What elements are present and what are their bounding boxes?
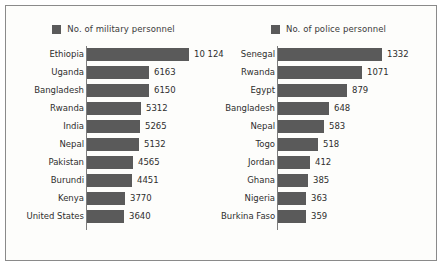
bar-value-label: 6150 bbox=[154, 84, 176, 97]
category-label: Nepal bbox=[221, 120, 275, 133]
bar bbox=[278, 66, 362, 79]
legend-swatch-icon bbox=[52, 25, 61, 34]
bar-value-label: 5312 bbox=[146, 102, 168, 115]
police-personnel-chart: No. of police personnel Senegal1332Rwand… bbox=[221, 6, 436, 260]
bar-row: Pakistan4565 bbox=[6, 154, 221, 172]
category-label: India bbox=[6, 120, 84, 133]
bar-value-label: 4565 bbox=[138, 156, 160, 169]
bar-value-label: 5132 bbox=[144, 138, 166, 151]
category-label: Rwanda bbox=[6, 102, 84, 115]
chart-frame: No. of military personnel Ethiopia10 124… bbox=[5, 5, 437, 261]
bar-rows-police: Senegal1332Rwanda1071Egypt879Bangladesh6… bbox=[221, 46, 436, 226]
bar bbox=[278, 156, 310, 169]
legend-police: No. of police personnel bbox=[221, 24, 436, 34]
bar-rows-military: Ethiopia10 124Uganda6163Bangladesh6150Rw… bbox=[6, 46, 221, 226]
bar bbox=[87, 192, 125, 205]
bar-value-label: 1332 bbox=[387, 48, 409, 61]
bar-value-label: 3770 bbox=[130, 192, 152, 205]
bar-row: Bangladesh6150 bbox=[6, 82, 221, 100]
bar-row: Rwanda5312 bbox=[6, 100, 221, 118]
bar bbox=[278, 102, 329, 115]
bar-row: Togo518 bbox=[221, 136, 436, 154]
bar-row: Uganda6163 bbox=[6, 64, 221, 82]
bar-value-label: 5265 bbox=[145, 120, 167, 133]
bar-row: Burkina Faso359 bbox=[221, 208, 436, 226]
bar-row: Burundi4451 bbox=[6, 172, 221, 190]
bar-row: Rwanda1071 bbox=[221, 64, 436, 82]
bar bbox=[278, 174, 308, 187]
bar-row: India5265 bbox=[6, 118, 221, 136]
bar-row: Nepal583 bbox=[221, 118, 436, 136]
category-label: Pakistan bbox=[6, 156, 84, 169]
bar bbox=[87, 66, 149, 79]
category-label: Kenya bbox=[6, 192, 84, 205]
bar-value-label: 518 bbox=[323, 138, 339, 151]
bar bbox=[87, 156, 133, 169]
plot-area-police: Senegal1332Rwanda1071Egypt879Bangladesh6… bbox=[221, 46, 436, 236]
bar-value-label: 3640 bbox=[129, 210, 151, 223]
bar-value-label: 879 bbox=[352, 84, 368, 97]
bar-row: Ethiopia10 124 bbox=[6, 46, 221, 64]
bar bbox=[278, 120, 324, 133]
bar bbox=[87, 174, 132, 187]
category-label: Bangladesh bbox=[6, 84, 84, 97]
category-label: Senegal bbox=[221, 48, 275, 61]
legend-label-police: No. of police personnel bbox=[286, 24, 386, 34]
category-label: Nigeria bbox=[221, 192, 275, 205]
bar bbox=[87, 210, 124, 223]
legend-label-military: No. of military personnel bbox=[67, 24, 174, 34]
bar-value-label: 6163 bbox=[154, 66, 176, 79]
category-label: Ethiopia bbox=[6, 48, 84, 61]
bar bbox=[278, 84, 347, 97]
category-label: Ghana bbox=[221, 174, 275, 187]
category-label: Bangladesh bbox=[221, 102, 275, 115]
category-label: Jordan bbox=[221, 156, 275, 169]
bar-row: Kenya3770 bbox=[6, 190, 221, 208]
bar bbox=[278, 48, 382, 61]
legend-swatch-icon bbox=[271, 25, 280, 34]
legend-military: No. of military personnel bbox=[6, 24, 221, 34]
bar-row: Jordan412 bbox=[221, 154, 436, 172]
bar-value-label: 10 124 bbox=[194, 48, 224, 61]
category-label: Egypt bbox=[221, 84, 275, 97]
charts-container: No. of military personnel Ethiopia10 124… bbox=[6, 6, 436, 260]
bar-row: Egypt879 bbox=[221, 82, 436, 100]
bar-value-label: 1071 bbox=[367, 66, 389, 79]
bar-value-label: 412 bbox=[315, 156, 331, 169]
bar-value-label: 359 bbox=[311, 210, 327, 223]
category-label: Uganda bbox=[6, 66, 84, 79]
bar bbox=[87, 48, 189, 61]
plot-area-military: Ethiopia10 124Uganda6163Bangladesh6150Rw… bbox=[6, 46, 221, 236]
bar bbox=[87, 138, 139, 151]
bar bbox=[278, 138, 318, 151]
bar-row: Ghana385 bbox=[221, 172, 436, 190]
bar bbox=[87, 120, 140, 133]
category-label: Nepal bbox=[6, 138, 84, 151]
bar-row: Bangladesh648 bbox=[221, 100, 436, 118]
bar-value-label: 583 bbox=[329, 120, 345, 133]
bar bbox=[87, 102, 141, 115]
category-label: Rwanda bbox=[221, 66, 275, 79]
military-personnel-chart: No. of military personnel Ethiopia10 124… bbox=[6, 6, 221, 260]
bar bbox=[278, 210, 306, 223]
category-label: Burkina Faso bbox=[221, 210, 275, 223]
bar-row: Nigeria363 bbox=[221, 190, 436, 208]
bar bbox=[278, 192, 306, 205]
bar-value-label: 363 bbox=[311, 192, 327, 205]
bar-value-label: 385 bbox=[313, 174, 329, 187]
category-label: Burundi bbox=[6, 174, 84, 187]
bar bbox=[87, 84, 149, 97]
bar-value-label: 4451 bbox=[137, 174, 159, 187]
category-label: Togo bbox=[221, 138, 275, 151]
bar-row: Senegal1332 bbox=[221, 46, 436, 64]
bar-row: United States3640 bbox=[6, 208, 221, 226]
bar-row: Nepal5132 bbox=[6, 136, 221, 154]
category-label: United States bbox=[6, 210, 84, 223]
bar-value-label: 648 bbox=[334, 102, 350, 115]
